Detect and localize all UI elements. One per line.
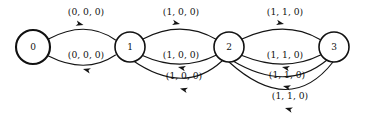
edge-label: (0, 0, 0) xyxy=(68,6,104,17)
edge-label: (1, 1, 0) xyxy=(267,6,303,17)
edge-label: (1, 0, 0) xyxy=(163,6,199,17)
state-node-1[interactable]: 1 xyxy=(115,32,145,62)
state-node-3[interactable]: 3 xyxy=(319,32,349,62)
edge-2-to-3 xyxy=(242,20,320,40)
state-node-label: 0 xyxy=(30,42,36,52)
diagram-canvas: 0123 (0, 0, 0)(0, 0, 0)(1, 0, 0)(1, 0, 0… xyxy=(0,0,371,118)
edge-label: (1, 0, 0) xyxy=(166,70,202,81)
edge-0-to-1 xyxy=(49,21,116,40)
state-node-label: 2 xyxy=(226,42,232,52)
state-node-0[interactable]: 0 xyxy=(16,30,50,64)
edge-path xyxy=(49,29,116,40)
edge-label: (1, 1, 0) xyxy=(269,69,305,80)
state-transition-diagram: 0123 (0, 0, 0)(0, 0, 0)(1, 0, 0)(1, 0, 0… xyxy=(0,0,371,118)
state-node-label: 3 xyxy=(331,42,337,52)
edge-label: (1, 0, 0) xyxy=(163,49,199,60)
state-node-2[interactable]: 2 xyxy=(214,32,244,62)
edge-path xyxy=(143,29,217,39)
arrowhead-icon xyxy=(172,20,180,27)
edge-label: (1, 1, 0) xyxy=(272,90,308,101)
arrowhead-icon xyxy=(284,105,293,112)
arrowhead-icon xyxy=(82,66,91,73)
arrowhead-icon xyxy=(76,21,85,28)
arrowhead-icon xyxy=(179,86,188,93)
edge-1-to-2 xyxy=(143,20,217,40)
edge-labels-layer: (0, 0, 0)(0, 0, 0)(1, 0, 0)(1, 0, 0)(1, … xyxy=(68,6,308,101)
state-node-label: 1 xyxy=(127,42,133,52)
edge-path xyxy=(242,29,320,39)
edge-label: (0, 0, 0) xyxy=(68,49,104,60)
arrowhead-icon xyxy=(276,20,284,27)
edge-label: (1, 1, 0) xyxy=(267,49,303,60)
